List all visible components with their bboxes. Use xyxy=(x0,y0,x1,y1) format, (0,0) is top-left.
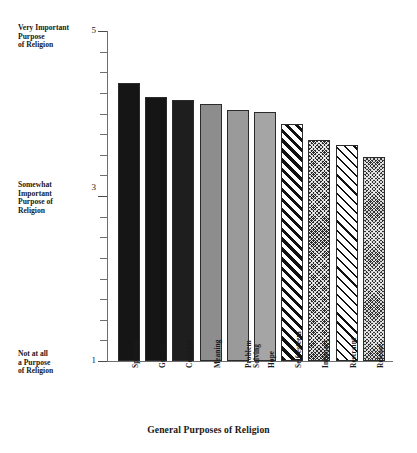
x-tick-label-spiritual: Spiritual xyxy=(132,339,140,368)
y-axis-tick xyxy=(98,361,107,362)
x-tick-label-line1: Restraint xyxy=(349,338,358,368)
y-tick-label-5: 5 xyxy=(82,26,96,35)
x-tick-label-line1: Release xyxy=(376,343,385,368)
y-axis-tick xyxy=(100,93,107,94)
y-axis-tick xyxy=(100,134,107,135)
y-axis-tick xyxy=(98,196,107,197)
x-axis-title: General Purposes of Religion xyxy=(0,424,417,435)
x-tick-label-line1: Hope xyxy=(267,351,276,368)
x-tick-label-hope: Hope xyxy=(268,351,276,368)
bar-hope xyxy=(254,112,276,361)
x-tick-label-line1: Intimacy xyxy=(321,339,330,368)
x-tick-label-line1: Meaning xyxy=(213,339,222,368)
y-axis-tick xyxy=(100,320,107,321)
x-tick-label-restraint: Restraint xyxy=(350,338,358,368)
y-axis-tick xyxy=(100,279,107,280)
y-tick-label-3: 3 xyxy=(82,183,96,192)
bar-problem xyxy=(227,110,249,361)
x-tick-label-line1: Spiritual xyxy=(131,339,140,368)
y-anno-low-line3: of Religion xyxy=(18,366,53,375)
x-tick-label-release: Release xyxy=(377,343,385,368)
y-axis-tick xyxy=(100,217,107,218)
x-tick-label-comfort: Comfort xyxy=(186,340,194,368)
x-tick-label-self-esteem: Self-esteem xyxy=(295,331,303,368)
y-axis-annotation-mid: Somewhat Important Purpose of Religion xyxy=(18,181,80,215)
x-tick-label-growth: Growth xyxy=(159,343,167,368)
y-axis-tick xyxy=(100,299,107,300)
y-anno-mid-line4: Religion xyxy=(18,206,45,215)
x-tick-label-line2: Solving xyxy=(253,340,261,368)
bar-comfort xyxy=(172,100,194,361)
y-axis-tick xyxy=(98,31,107,32)
bar-restraint xyxy=(336,145,358,361)
plot-area xyxy=(107,31,393,361)
x-tick-label-intimacy: Intimacy xyxy=(322,339,330,368)
x-tick-label-meaning: Meaning xyxy=(214,339,222,368)
y-axis-tick xyxy=(100,52,107,53)
y-axis-tick xyxy=(100,340,107,341)
y-axis-annotation-low: Not at all a Purpose of Religion xyxy=(18,350,80,376)
bar-spiritual xyxy=(118,83,140,361)
x-tick-label-line1: Self-esteem xyxy=(294,331,303,368)
bar-growth xyxy=(145,97,167,361)
bar-chart: Very Important Purpose of Religion Somew… xyxy=(0,0,417,453)
bar-release xyxy=(363,157,385,361)
y-axis-tick xyxy=(100,155,107,156)
x-tick-label-line1: Growth xyxy=(158,343,167,368)
y-axis-tick xyxy=(100,114,107,115)
bar-meaning xyxy=(200,104,222,361)
y-axis-tick xyxy=(100,258,107,259)
y-axis-tick xyxy=(100,237,107,238)
y-tick-label-1: 1 xyxy=(82,356,96,365)
x-tick-label-problem: ProblemSolving xyxy=(245,340,261,368)
x-tick-label-line1: Comfort xyxy=(185,340,194,368)
y-axis-tick xyxy=(100,72,107,73)
bar-self-esteem xyxy=(281,124,303,361)
y-anno-high-line3: of Religion xyxy=(18,40,53,49)
y-axis-tick xyxy=(100,175,107,176)
bar-intimacy xyxy=(308,140,330,361)
y-axis-annotation-high: Very Important Purpose of Religion xyxy=(18,24,80,50)
